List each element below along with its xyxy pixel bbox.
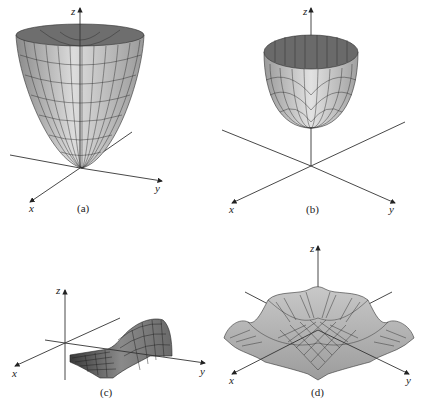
y-axis — [80, 168, 162, 181]
ridge-surface — [70, 319, 172, 378]
x-axis — [15, 343, 65, 366]
y-axis-label: y — [154, 182, 160, 194]
z-axis-label: z — [309, 242, 315, 254]
x-axis — [232, 166, 311, 203]
x-axis-label: x — [11, 367, 17, 379]
x-axis-label: x — [228, 203, 234, 215]
axis-back-line — [311, 122, 405, 166]
y-axis — [311, 166, 395, 203]
paraboloid-rim — [264, 35, 358, 69]
z-axis-label: z — [70, 5, 76, 17]
panel-caption: (d) — [311, 386, 324, 399]
x-axis-label: x — [228, 374, 234, 386]
x-axis — [30, 168, 80, 202]
panel-caption: (b) — [306, 203, 319, 216]
y-axis-label: y — [199, 365, 205, 377]
panel-caption: (c) — [100, 386, 113, 399]
figure-canvas: z x y (a) z x y (b) — [0, 0, 423, 413]
y-axis-label: y — [405, 374, 411, 386]
axis-back-line — [45, 340, 65, 343]
ripple-surface — [224, 287, 414, 380]
z-axis-label: z — [302, 5, 308, 17]
panel-caption: (a) — [77, 202, 90, 215]
z-axis-label: z — [55, 284, 61, 296]
panel-d: z x y (d) — [224, 242, 414, 399]
panel-b: z x y (b) — [222, 5, 405, 216]
panel-a: z x y (a) — [10, 5, 162, 215]
axis-back-line — [65, 318, 120, 343]
axis-back-line — [222, 130, 311, 166]
x-axis-label: x — [28, 202, 34, 214]
y-axis-label: y — [388, 203, 394, 215]
panel-c: z x y (c) — [11, 284, 205, 399]
